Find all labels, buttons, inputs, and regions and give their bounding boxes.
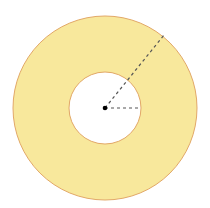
diagram-svg bbox=[0, 0, 210, 208]
center-point bbox=[103, 106, 108, 111]
annulus-diagram bbox=[0, 0, 210, 208]
